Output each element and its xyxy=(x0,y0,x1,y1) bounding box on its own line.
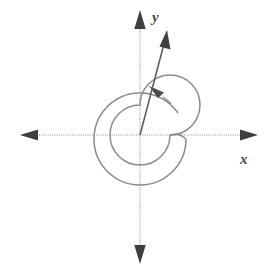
angle-arc-group xyxy=(94,75,200,185)
x-axis-label: x xyxy=(239,151,248,167)
y-axis-arrow-up-icon xyxy=(134,10,145,29)
terminal-ray-line xyxy=(140,40,165,135)
y-axis xyxy=(134,10,145,264)
terminal-ray-group xyxy=(140,30,171,135)
coordinate-plane-svg: y x xyxy=(0,0,275,277)
angle-diagram-figure: y x xyxy=(0,0,275,277)
terminal-ray-arrowhead-icon xyxy=(160,30,171,50)
x-axis-arrow-left-icon xyxy=(20,130,38,141)
x-axis-arrow-right-icon xyxy=(240,130,258,141)
angle-arc-inner-revolution xyxy=(110,75,200,165)
y-axis-label: y xyxy=(150,9,159,25)
y-axis-arrow-down-icon xyxy=(134,245,145,264)
